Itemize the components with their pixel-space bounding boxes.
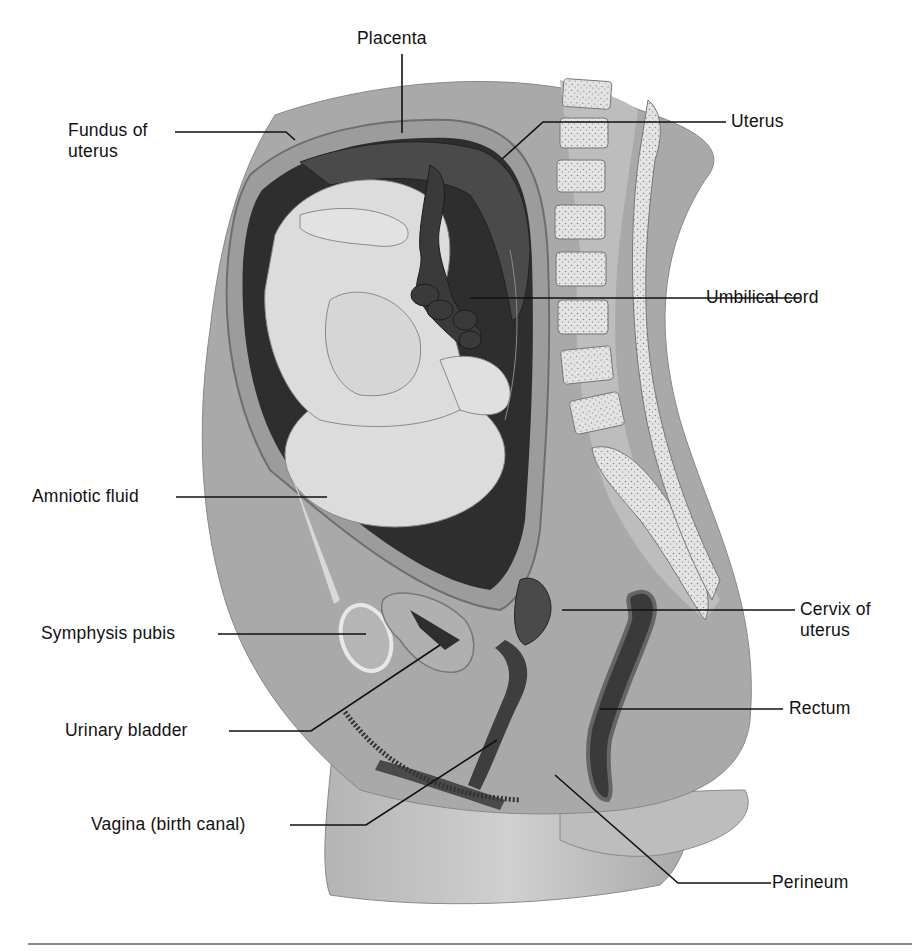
label-urinary-bladder: Urinary bladder bbox=[65, 720, 188, 741]
label-cervix-of-uterus: Cervix of uterus bbox=[800, 599, 871, 641]
label-umbilical-cord: Umbilical cord bbox=[706, 287, 819, 308]
label-vagina-birth-canal: Vagina (birth canal) bbox=[91, 814, 245, 835]
label-uterus: Uterus bbox=[731, 111, 784, 132]
bottom-divider bbox=[28, 943, 912, 945]
label-rectum: Rectum bbox=[789, 698, 851, 719]
label-perineum: Perineum bbox=[772, 872, 849, 893]
label-fundus-of-uterus: Fundus of uterus bbox=[68, 120, 148, 162]
label-placenta: Placenta bbox=[357, 28, 427, 49]
label-symphysis-pubis: Symphysis pubis bbox=[41, 623, 175, 644]
label-amniotic-fluid: Amniotic fluid bbox=[32, 486, 139, 507]
